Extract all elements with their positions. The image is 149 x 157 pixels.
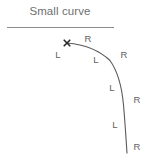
turn-label-r-1: R [85, 34, 92, 44]
turn-label-l-2: L [93, 55, 98, 65]
turn-label-l-4: L [112, 120, 117, 130]
turn-label-l-3: L [109, 83, 114, 93]
turn-label-r-4: R [134, 142, 141, 152]
curve-plot [0, 0, 149, 157]
turn-label-r-2: R [121, 50, 128, 60]
small-curve-figure: Small curve R L L R L R L R [0, 0, 149, 157]
turn-label-l-1: L [55, 50, 60, 60]
turn-label-r-3: R [134, 95, 141, 105]
